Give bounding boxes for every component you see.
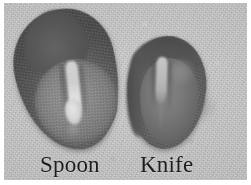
specimen-knife-lower-seam — [159, 99, 163, 133]
figure-photograph: Spoon Knife — [0, 0, 251, 185]
photo-plate: Spoon Knife — [4, 3, 247, 180]
specimen-label-knife: Knife — [140, 153, 193, 176]
specimen-label-spoon: Spoon — [40, 153, 100, 176]
specimen-knife-light-patch — [170, 59, 196, 87]
specimen-knife-groove-right — [167, 59, 172, 109]
specimen-spoon-bottom-notch — [64, 125, 82, 139]
